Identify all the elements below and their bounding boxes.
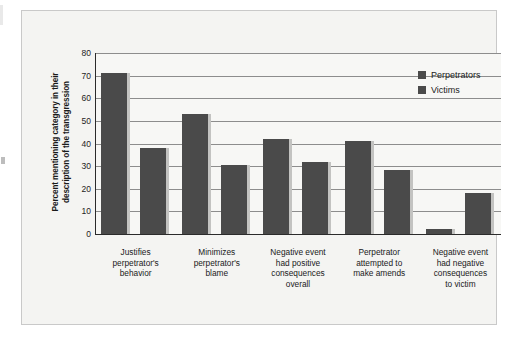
bar-victims-0 bbox=[140, 148, 169, 234]
x-axis-line bbox=[95, 234, 501, 235]
chart-legend: PerpetratorsVictims bbox=[418, 70, 481, 100]
legend-item-victims[interactable]: Victims bbox=[418, 85, 481, 95]
x-axis-label-0: Justifiesperpetrator'sbehavior bbox=[93, 247, 179, 279]
x-axis-label-line: overall bbox=[255, 279, 341, 290]
bar-group bbox=[257, 53, 338, 234]
x-axis-label-4: Negative eventhad negativeconsequencesto… bbox=[417, 247, 503, 289]
legend-swatch-icon bbox=[418, 71, 426, 79]
bar-perpetrators-2 bbox=[263, 139, 292, 234]
bar-victims-1 bbox=[221, 165, 250, 234]
bar-group bbox=[176, 53, 257, 234]
y-tick-label-30: 30 bbox=[82, 162, 91, 171]
x-axis-category-labels: Justifiesperpetrator'sbehaviorMinimizesp… bbox=[95, 247, 501, 317]
x-axis-label-line: had positive bbox=[255, 258, 341, 269]
bar-victims-2 bbox=[302, 162, 331, 234]
page-edge-artifact-top bbox=[0, 5, 3, 25]
x-axis-label-1: Minimizesperpetrator'sblame bbox=[174, 247, 260, 279]
y-tick-label-50: 50 bbox=[82, 117, 91, 126]
bar-victims-3 bbox=[384, 170, 413, 234]
bar-victims-4 bbox=[465, 193, 494, 234]
y-tick-label-80: 80 bbox=[82, 49, 91, 58]
y-tick-label-70: 70 bbox=[82, 71, 91, 80]
x-axis-label-line: Negative event bbox=[255, 247, 341, 258]
y-tick-label-10: 10 bbox=[82, 207, 91, 216]
x-axis-label-line: to victim bbox=[417, 279, 503, 290]
y-tick-label-60: 60 bbox=[82, 94, 91, 103]
x-axis-label-line: consequences bbox=[417, 268, 503, 279]
y-tick-label-20: 20 bbox=[82, 185, 91, 194]
x-axis-label-line: make amends bbox=[336, 268, 422, 279]
bar-group bbox=[339, 53, 420, 234]
y-axis-title-line-2: description of the transgression bbox=[61, 42, 72, 242]
x-axis-label-line: Negative event bbox=[417, 247, 503, 258]
bar-perpetrators-3 bbox=[345, 141, 374, 234]
x-axis-label-line: had negative bbox=[417, 258, 503, 269]
x-axis-label-line: Justifies bbox=[93, 247, 179, 258]
x-axis-label-line: behavior bbox=[93, 268, 179, 279]
legend-item-perpetrators[interactable]: Perpetrators bbox=[418, 70, 481, 80]
x-axis-label-3: Perpetratorattempted tomake amends bbox=[336, 247, 422, 279]
bar-perpetrators-0 bbox=[101, 73, 130, 234]
x-axis-label-line: perpetrator's bbox=[93, 258, 179, 269]
x-axis-label-line: Perpetrator bbox=[336, 247, 422, 258]
legend-swatch-icon bbox=[418, 86, 426, 94]
y-tick-label-0: 0 bbox=[86, 230, 91, 239]
y-axis-title-line-1: Percent mentioning category in their bbox=[50, 42, 61, 242]
x-axis-label-line: consequences bbox=[255, 268, 341, 279]
x-axis-label-line: attempted to bbox=[336, 258, 422, 269]
y-axis-title: Percent mentioning category in their des… bbox=[50, 42, 72, 242]
legend-label: Victims bbox=[431, 85, 460, 95]
x-axis-label-2: Negative eventhad positiveconsequencesov… bbox=[255, 247, 341, 289]
bar-perpetrators-1 bbox=[182, 114, 211, 234]
chart-figure: Percent mentioning category in their des… bbox=[21, 10, 497, 325]
y-tick-label-40: 40 bbox=[82, 139, 91, 148]
x-axis-label-line: blame bbox=[174, 268, 260, 279]
x-axis-label-line: perpetrator's bbox=[174, 258, 260, 269]
bar-group bbox=[95, 53, 176, 234]
page-edge-artifact-mid bbox=[1, 157, 5, 164]
y-axis-line bbox=[95, 53, 96, 235]
legend-label: Perpetrators bbox=[431, 70, 481, 80]
x-axis-label-line: Minimizes bbox=[174, 247, 260, 258]
